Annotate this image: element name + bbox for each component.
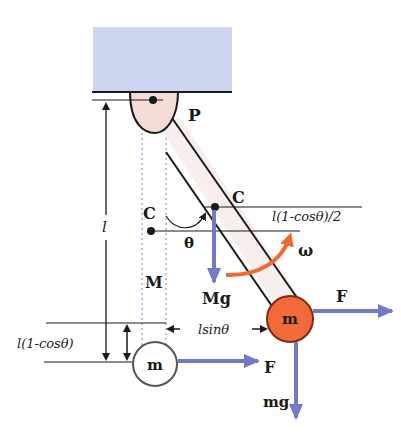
ball-rest-label: m <box>147 356 163 374</box>
pivot-label: P <box>188 105 201 125</box>
force-displaced-label: F <box>336 287 348 306</box>
force-rest-label: F <box>264 358 276 377</box>
offset-label: lsinθ <box>198 322 229 337</box>
diagram: P l C C θ l(1-cosθ)/2 Mg M ω l(1-cosθ) l… <box>0 0 401 439</box>
rod-mass-label: M <box>145 273 163 292</box>
pendulum-diagram: P l C C θ l(1-cosθ)/2 Mg M ω l(1-cosθ) l… <box>0 0 401 439</box>
ball-weight-label: mg <box>263 393 290 411</box>
rod-edge-left <box>166 152 276 312</box>
ball-rise-label: l(1-cosθ) <box>17 336 74 351</box>
length-label: l <box>102 218 107 236</box>
center-lower-label: C <box>143 204 156 223</box>
omega-label: ω <box>298 241 313 260</box>
theta-label: θ <box>184 234 194 252</box>
ball-displaced-label: m <box>282 310 298 328</box>
rod-weight-label: Mg <box>202 289 231 308</box>
center-upper-label: C <box>232 188 245 207</box>
center-upper-point <box>211 203 219 211</box>
center-lower-point <box>147 227 155 235</box>
center-rise-label: l(1-cosθ)/2 <box>272 209 341 224</box>
theta-arc <box>166 214 205 228</box>
ceiling-block <box>93 27 232 92</box>
